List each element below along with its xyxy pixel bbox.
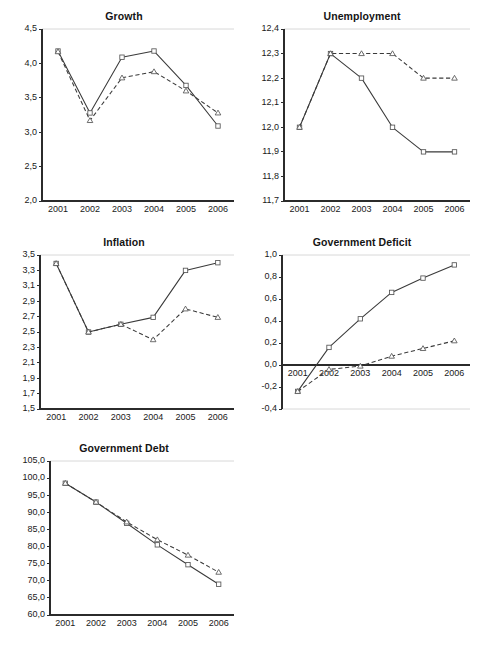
x-tick-label: 2006 xyxy=(444,204,464,214)
data-point-marker xyxy=(155,537,161,542)
data-point-marker xyxy=(452,150,456,154)
x-tick-label: 2003 xyxy=(112,204,132,214)
y-tick-label: 1,7 xyxy=(22,388,35,398)
y-tick-label: 4,5 xyxy=(24,23,37,33)
y-tick-label: -0,2 xyxy=(261,381,277,391)
chart-panel-unemployment: Unemployment11,711,811,912,012,112,212,3… xyxy=(248,10,476,228)
y-tick-label: 2,0 xyxy=(24,195,37,205)
y-tick-label: 0,0 xyxy=(264,359,277,369)
data-point-marker xyxy=(359,76,363,80)
y-tick-label: 0,8 xyxy=(264,271,277,281)
data-point-marker xyxy=(186,562,190,566)
data-point-marker xyxy=(183,306,189,311)
data-point-marker xyxy=(184,83,188,87)
y-tick-label: 12,0 xyxy=(261,122,279,132)
y-tick-label: 4,0 xyxy=(24,58,37,68)
y-tick-label: 95,0 xyxy=(27,490,45,500)
x-tick-label: 2002 xyxy=(80,204,100,214)
series-line-dashed xyxy=(58,52,218,121)
y-tick-label: 2,5 xyxy=(22,326,35,336)
data-point-marker xyxy=(390,125,394,129)
x-tick-label: 2003 xyxy=(350,368,370,378)
x-tick-label: 2006 xyxy=(209,618,229,628)
data-point-marker xyxy=(216,569,222,574)
chart-title-deficit: Government Deficit xyxy=(248,236,476,249)
data-point-marker xyxy=(421,150,425,154)
series-line-dashed xyxy=(298,341,455,392)
data-point-marker xyxy=(152,49,156,53)
plot-area-inflation: 1,51,71,92,12,32,52,72,93,13,33,52001200… xyxy=(8,249,240,431)
x-tick-label: 2005 xyxy=(413,204,433,214)
x-tick-label: 2005 xyxy=(175,412,195,422)
y-tick-label: 100,0 xyxy=(22,472,45,482)
y-tick-label: 1,5 xyxy=(22,403,35,413)
data-point-marker xyxy=(421,276,425,280)
series-line-solid xyxy=(56,263,218,332)
y-tick-label: 12,2 xyxy=(261,73,279,83)
x-tick-label: 2004 xyxy=(147,618,167,628)
y-tick-label: 12,1 xyxy=(261,97,279,107)
chart-title-unemployment: Unemployment xyxy=(248,10,476,23)
x-tick-label: 2006 xyxy=(208,412,228,422)
data-point-marker xyxy=(216,582,220,586)
data-point-marker xyxy=(88,111,92,115)
x-tick-label: 2005 xyxy=(176,204,196,214)
chart-panel-deficit: Government Deficit-0,4-0,20,00,20,40,60,… xyxy=(248,236,476,436)
data-point-marker xyxy=(185,552,191,557)
plot-area-unemployment: 11,711,811,912,012,112,212,312,420012002… xyxy=(248,23,476,223)
x-tick-label: 2004 xyxy=(382,368,402,378)
data-point-marker xyxy=(151,69,157,74)
data-point-marker xyxy=(216,124,220,128)
y-tick-label: 11,8 xyxy=(262,171,279,181)
y-tick-label: 65,0 xyxy=(27,592,45,602)
x-tick-label: 2006 xyxy=(208,204,228,214)
y-tick-label: 0,6 xyxy=(264,293,277,303)
plot-area-deficit: -0,4-0,20,00,20,40,60,81,020012002200320… xyxy=(248,249,476,431)
data-point-marker xyxy=(452,338,458,343)
data-point-marker xyxy=(452,75,458,80)
y-tick-label: 3,0 xyxy=(24,127,37,137)
plot-area-growth: 2,02,53,03,54,04,52001200220032004200520… xyxy=(8,23,240,223)
chart-panel-inflation: Inflation1,51,71,92,12,32,52,72,93,13,33… xyxy=(8,236,240,436)
data-point-marker xyxy=(151,315,155,319)
series-line-dashed xyxy=(56,263,218,339)
x-tick-label: 2005 xyxy=(413,368,433,378)
x-tick-label: 2003 xyxy=(111,412,131,422)
y-tick-label: 12,4 xyxy=(261,23,279,33)
y-tick-label: 2,3 xyxy=(22,342,35,352)
data-point-marker xyxy=(183,88,189,93)
x-tick-label: 2005 xyxy=(178,618,198,628)
y-tick-label: 2,7 xyxy=(22,311,35,321)
data-point-marker xyxy=(358,317,362,321)
x-tick-label: 2004 xyxy=(144,204,164,214)
chart-panel-debt: Government Debt60,065,070,075,080,085,09… xyxy=(8,442,240,642)
data-point-marker xyxy=(327,345,331,349)
x-tick-label: 2001 xyxy=(46,412,66,422)
y-tick-label: 75,0 xyxy=(27,558,45,568)
y-tick-label: 0,4 xyxy=(264,315,277,325)
x-tick-label: 2002 xyxy=(86,618,106,628)
series-line-solid xyxy=(58,51,218,126)
series-line-solid xyxy=(300,54,455,152)
chart-title-debt: Government Debt xyxy=(8,442,240,455)
x-tick-label: 2004 xyxy=(382,204,402,214)
series-line-solid xyxy=(65,483,218,584)
series-line-dashed xyxy=(65,483,218,572)
y-tick-label: 2,5 xyxy=(24,161,37,171)
x-tick-label: 2004 xyxy=(143,412,163,422)
data-point-marker xyxy=(120,55,124,59)
x-tick-label: 2006 xyxy=(444,368,464,378)
y-tick-label: 90,0 xyxy=(27,507,45,517)
y-tick-label: 85,0 xyxy=(27,524,45,534)
chart-grid: Growth2,02,53,03,54,04,52001200220032004… xyxy=(0,0,481,649)
x-tick-label: 2002 xyxy=(320,204,340,214)
y-tick-label: 105,0 xyxy=(22,455,45,465)
y-tick-label: 2,1 xyxy=(22,357,35,367)
chart-title-inflation: Inflation xyxy=(8,236,240,249)
plot-area-debt: 60,065,070,075,080,085,090,095,0100,0105… xyxy=(8,455,240,637)
chart-title-growth: Growth xyxy=(8,10,240,23)
y-tick-label: 3,3 xyxy=(22,265,35,275)
data-point-marker xyxy=(216,261,220,265)
y-tick-label: 3,1 xyxy=(22,280,35,290)
y-tick-label: 12,3 xyxy=(261,48,279,58)
